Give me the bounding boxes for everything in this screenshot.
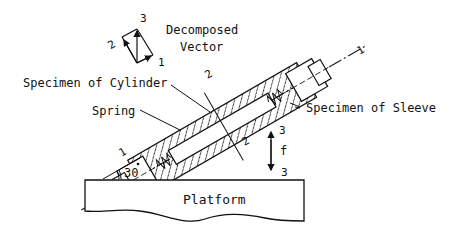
- axis2-top-label: 2: [202, 67, 214, 82]
- spring-label: Spring: [92, 104, 135, 118]
- decomposed-label-line2: Vector: [180, 40, 223, 54]
- sleeve-label: Specimen of Sleeve: [306, 101, 436, 115]
- vector-label-2: 2: [106, 37, 118, 52]
- vector-label-3: 3: [140, 12, 147, 25]
- diagram-canvas: 3 2 1 Decomposed Vector 1 1 2 2 Spec: [0, 0, 465, 229]
- platform-label: Platform: [183, 192, 246, 207]
- cylinder-label: Specimen of Cylinder: [23, 76, 168, 90]
- vector-label-1: 1: [158, 56, 165, 69]
- decomposed-vector-icon: [122, 29, 153, 63]
- force-label: f: [280, 144, 287, 158]
- axis3-bottom-label: 3: [281, 166, 288, 179]
- degree-mark: [137, 163, 140, 166]
- axis1-top-label: 1: [354, 43, 366, 58]
- axis3-top-label: 3: [279, 124, 286, 137]
- cylinder-leader: [171, 85, 210, 112]
- axis1-bottom-label: 1: [116, 145, 128, 160]
- spring-leader: [140, 110, 180, 130]
- decomposed-label-line1: Decomposed: [166, 23, 238, 37]
- angle-label: 30: [124, 166, 138, 180]
